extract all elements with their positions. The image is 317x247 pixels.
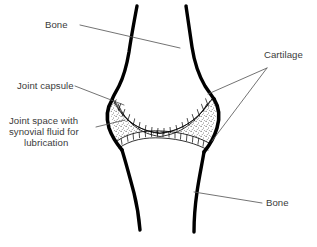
label-bone-bottom: Bone: [266, 197, 289, 208]
label-joint-space-line2: synovial fluid for: [9, 126, 79, 137]
joint-diagram: Bone Cartilage Joint capsule Joint space…: [0, 0, 317, 247]
label-cartilage: Cartilage: [264, 49, 303, 60]
label-joint-space-line3: lubrication: [24, 137, 68, 148]
synovial-joint-figure: Bone Cartilage Joint capsule Joint space…: [0, 0, 317, 247]
label-joint-capsule: Joint capsule: [17, 80, 74, 91]
label-bone-top: Bone: [45, 19, 68, 30]
label-joint-space-line1: Joint space with: [9, 115, 78, 126]
